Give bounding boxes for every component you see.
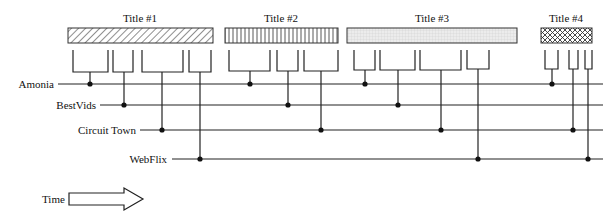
channel-label-amonia: Amonia [19,78,55,90]
title-label-4: Title #4 [549,12,584,24]
channel-label-circuit-town: Circuit Town [78,124,136,136]
release-dot [87,81,92,86]
release-dot [585,156,590,161]
window-bracket [569,50,578,69]
release-dot [318,127,323,132]
window-bracket [420,50,461,70]
window-bracket [585,50,592,69]
title-bar-2 [225,28,338,43]
channel-label-bestvids: BestVids [56,99,96,111]
window-bracket [277,50,298,71]
release-dot [121,102,126,107]
title-label-1: Title #1 [123,12,157,24]
release-dot [570,127,575,132]
release-dot [395,102,400,107]
title-4-windows [545,50,592,162]
release-dot [247,81,252,86]
channel-label-webflix: WebFlix [129,153,167,165]
release-dot [159,127,164,132]
window-bracket [354,50,375,70]
window-bracket [304,50,338,71]
title-label-2: Title #2 [264,12,298,24]
title-bar-3 [347,28,517,43]
title-3-windows [354,50,489,162]
release-diagram: Title #1 Title #2 Title #3 Title #4 Amon… [0,0,603,224]
window-bracket [229,50,270,71]
window-bracket [73,50,108,72]
release-dot [197,156,202,161]
window-bracket [189,50,211,72]
time-label: Time [42,193,65,205]
release-dot [362,81,367,86]
release-dot [285,102,290,107]
title-2-windows [229,50,338,133]
window-bracket [142,50,183,72]
right-arrow-icon [69,188,143,210]
window-bracket [380,50,415,70]
release-dot [475,156,480,161]
title-bar-4 [541,28,592,43]
window-bracket [545,50,558,69]
window-bracket [467,50,489,69]
release-dot [549,81,554,86]
title-bar-1 [68,28,213,43]
window-bracket [113,50,133,72]
release-dot [438,127,443,132]
title-label-3: Title #3 [415,12,450,24]
